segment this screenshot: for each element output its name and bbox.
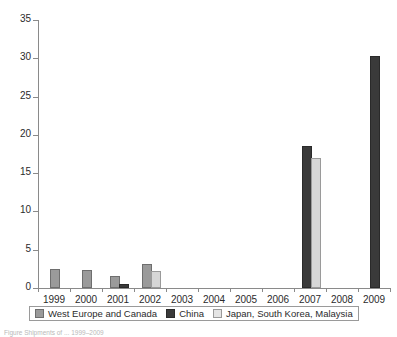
- y-axis-line: [38, 20, 39, 288]
- y-tick-mark: [33, 211, 38, 212]
- x-tick-mark: [38, 288, 39, 292]
- y-tick-label: 5: [25, 243, 31, 255]
- legend-swatch-icon: [166, 309, 175, 318]
- y-tick-label: 20: [20, 128, 31, 140]
- bar-2000-series-0: [82, 270, 92, 288]
- x-tick-mark: [230, 288, 231, 292]
- figure-caption: Figure Shipments of ... 1999–2009: [4, 329, 393, 337]
- x-tick-label-2006: 2006: [262, 294, 294, 306]
- bar-1999-series-0: [50, 269, 60, 288]
- chart-plot-area: 05101520253035 1999200020012002200320042…: [38, 20, 390, 288]
- legend-item-0: West Europe and Canada: [35, 308, 157, 319]
- y-tick-label: 30: [20, 51, 31, 63]
- x-tick-label-2003: 2003: [166, 294, 198, 306]
- figure-container: 05101520253035 1999200020012002200320042…: [0, 0, 397, 337]
- x-tick-mark: [326, 288, 327, 292]
- x-tick-label-2001: 2001: [102, 294, 134, 306]
- x-tick-label-2000: 2000: [70, 294, 102, 306]
- legend-label: China: [179, 308, 204, 319]
- x-tick-mark: [390, 288, 391, 292]
- x-tick-mark: [166, 288, 167, 292]
- x-tick-mark: [102, 288, 103, 292]
- y-tick-label: 25: [20, 90, 31, 102]
- legend-item-1: China: [166, 308, 204, 319]
- y-tick-label: 35: [20, 13, 31, 25]
- legend-swatch-icon: [213, 309, 222, 318]
- x-tick-mark: [134, 288, 135, 292]
- x-tick-mark: [294, 288, 295, 292]
- y-tick-mark: [33, 173, 38, 174]
- y-tick-mark: [33, 250, 38, 251]
- y-tick-label: 15: [20, 166, 31, 178]
- x-tick-mark: [70, 288, 71, 292]
- x-tick-mark: [198, 288, 199, 292]
- y-tick-mark: [33, 135, 38, 136]
- y-tick-label: 10: [20, 204, 31, 216]
- x-tick-label-2004: 2004: [198, 294, 230, 306]
- x-axis-line: [38, 288, 390, 289]
- chart-legend: West Europe and CanadaChinaJapan, South …: [29, 306, 359, 321]
- y-tick-mark: [33, 20, 38, 21]
- y-tick-mark: [33, 58, 38, 59]
- x-tick-label-2005: 2005: [230, 294, 262, 306]
- legend-swatch-icon: [35, 309, 44, 318]
- x-tick-label-1999: 1999: [38, 294, 70, 306]
- x-tick-label-2009: 2009: [358, 294, 390, 306]
- x-tick-mark: [262, 288, 263, 292]
- legend-label: West Europe and Canada: [48, 308, 157, 319]
- legend-label: Japan, South Korea, Malaysia: [226, 308, 353, 319]
- legend-item-2: Japan, South Korea, Malaysia: [213, 308, 353, 319]
- x-tick-label-2008: 2008: [326, 294, 358, 306]
- y-tick-label: 0: [25, 281, 31, 293]
- x-tick-label-2002: 2002: [134, 294, 166, 306]
- bar-2001-series-1: [119, 284, 129, 288]
- x-tick-label-2007: 2007: [294, 294, 326, 306]
- bar-2009-series-1: [370, 56, 380, 288]
- bar-2007-series-2: [311, 158, 321, 288]
- bar-2002-series-2: [151, 271, 161, 288]
- x-tick-mark: [358, 288, 359, 292]
- y-tick-mark: [33, 97, 38, 98]
